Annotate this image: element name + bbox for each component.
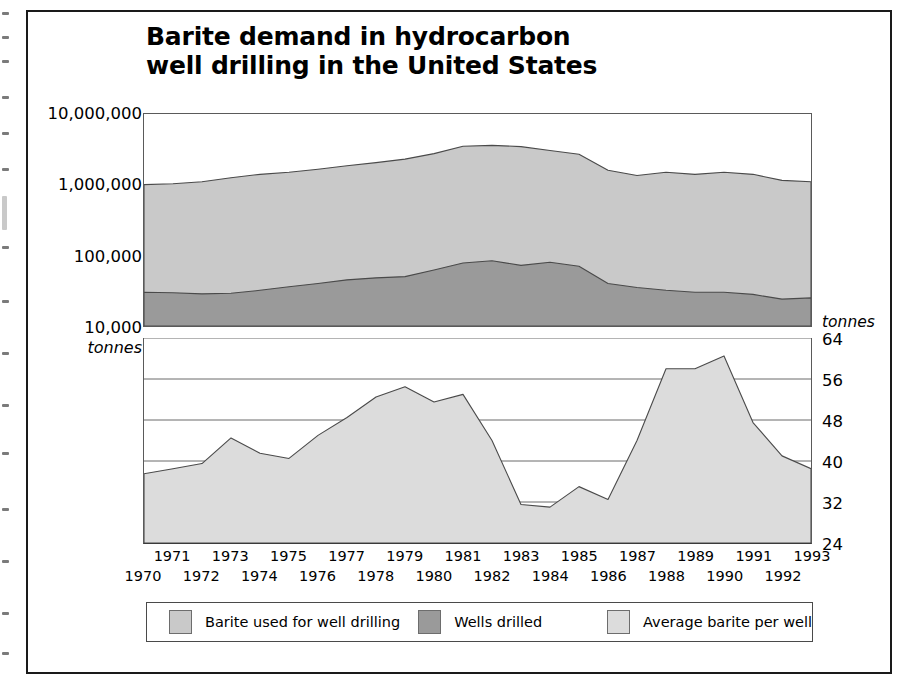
x-axis-year-1976: 1976 [299, 568, 336, 584]
legend-item-1: Wells drilled [400, 610, 589, 634]
x-axis-year-1981: 1981 [445, 548, 482, 564]
x-axis-year-1985: 1985 [561, 548, 598, 564]
x-axis-year-1990: 1990 [706, 568, 743, 584]
lower-chart-svg [144, 338, 811, 543]
x-axis-year-1988: 1988 [648, 568, 685, 584]
x-axis-year-1970: 1970 [125, 568, 162, 584]
lower-chart-plot-area [143, 338, 812, 544]
legend-label-2: Average barite per well [643, 614, 812, 630]
lower-area-average-barite-per-well [144, 356, 811, 543]
wells-swatch [418, 610, 441, 634]
x-axis-year-1992: 1992 [764, 568, 801, 584]
page-title: Barite demand in hydrocarbon well drilli… [146, 22, 666, 81]
x-axis-year-1980: 1980 [415, 568, 452, 584]
upper-chart-svg [144, 114, 811, 326]
legend-label-1: Wells drilled [454, 614, 542, 630]
title-line-1: Barite demand in hydrocarbon [146, 22, 666, 51]
x-axis-year-1975: 1975 [270, 548, 307, 564]
average-swatch [607, 610, 630, 634]
x-axis-year-1979: 1979 [386, 548, 423, 564]
chart-legend: Barite used for well drillingWells drill… [146, 602, 813, 642]
right-axis-tick-56: 56 [822, 371, 882, 390]
right-axis-tick-24: 24 [822, 535, 882, 554]
barite-swatch [169, 610, 192, 634]
x-axis-year-1972: 1972 [183, 568, 220, 584]
upper-chart-plot-area [143, 113, 812, 327]
right-axis-units: tonnes [822, 313, 882, 331]
legend-item-0: Barite used for well drilling [147, 610, 400, 634]
right-axis-tick-32: 32 [822, 494, 882, 513]
x-axis-year-1993: 1993 [794, 548, 831, 564]
left-axis-tick-10000000: 10,000,000 [28, 104, 142, 123]
legend-item-2: Average barite per well [589, 610, 812, 634]
x-axis-year-labels: 1970197119721973197419751976197719781979… [143, 548, 812, 590]
legend-label-0: Barite used for well drilling [205, 614, 400, 630]
x-axis-year-1973: 1973 [212, 548, 249, 564]
x-axis-year-1978: 1978 [357, 568, 394, 584]
page-scan-edge-marks [0, 0, 16, 691]
x-axis-year-1977: 1977 [328, 548, 365, 564]
x-axis-year-1971: 1971 [154, 548, 191, 564]
x-axis-year-1989: 1989 [677, 548, 714, 564]
x-axis-year-1986: 1986 [590, 568, 627, 584]
left-axis-tick-10000: 10,000 [28, 318, 142, 337]
left-axis-units: tonnes [28, 338, 142, 357]
right-axis-tick-64: 64 [822, 330, 882, 349]
x-axis-year-1984: 1984 [532, 568, 569, 584]
left-axis-tick-1000000: 1,000,000 [28, 175, 142, 194]
title-line-2: well drilling in the United States [146, 51, 666, 80]
x-axis-year-1974: 1974 [241, 568, 278, 584]
right-axis-tick-48: 48 [822, 412, 882, 431]
left-axis-tick-100000: 100,000 [28, 247, 142, 266]
x-axis-year-1991: 1991 [735, 548, 772, 564]
x-axis-year-1987: 1987 [619, 548, 656, 564]
right-axis-tick-40: 40 [822, 453, 882, 472]
x-axis-year-1983: 1983 [503, 548, 540, 564]
x-axis-year-1982: 1982 [474, 568, 511, 584]
